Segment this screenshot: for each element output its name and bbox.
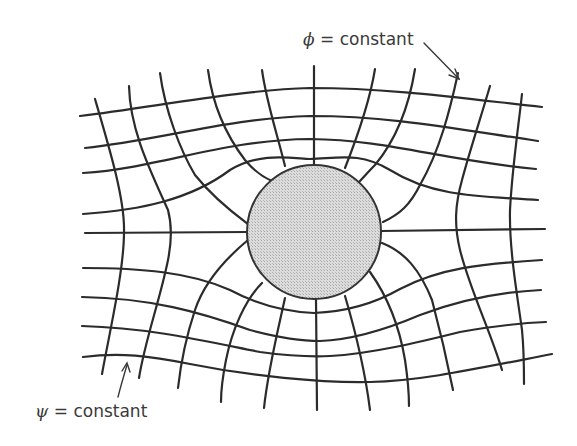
streamline-5-right — [381, 229, 545, 231]
potential-center-b — [316, 299, 317, 410]
potential-right-4 — [358, 69, 415, 183]
potential-right-4b — [370, 272, 409, 406]
streamline-1 — [80, 88, 542, 116]
phi-label-arrow — [424, 43, 459, 79]
phi-label-text: = constant — [315, 29, 414, 49]
psi-constant-label: ψ = constant — [35, 401, 147, 421]
phi-constant-label: ϕ = constant — [303, 29, 414, 49]
streamline-5-left — [85, 232, 247, 233]
streamline-2 — [85, 116, 538, 148]
flow-net-diagram: ϕ = constant ψ = constant — [0, 0, 577, 446]
potential-left-1 — [95, 99, 124, 374]
potential-left-3b — [178, 240, 248, 388]
cylinder — [247, 165, 381, 299]
flow-net-svg — [0, 0, 577, 446]
potential-left-3 — [160, 73, 248, 224]
psi-label-text: = constant — [48, 401, 147, 421]
psi-symbol: ψ — [35, 401, 48, 421]
phi-symbol: ϕ — [303, 29, 315, 49]
